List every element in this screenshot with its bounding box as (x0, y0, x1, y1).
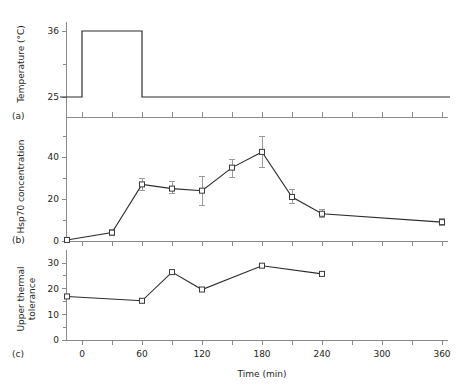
x-axis-tick-label: 0 (79, 349, 85, 359)
panel-c-data-point (65, 294, 70, 299)
panel-a-ytick-label: 36 (48, 26, 60, 36)
panel-b-y-axis-label: Hsp70 concentration (16, 140, 26, 234)
panel-c-data-point (200, 287, 205, 292)
x-axis-tick-label: 60 (136, 349, 148, 359)
panel-b-ytick-label: 0 (53, 236, 59, 246)
x-axis-tick-label: 120 (193, 349, 210, 359)
panel-c-data-line (67, 266, 322, 301)
panel-b-data-point (440, 220, 445, 225)
panel-b-data-point (260, 149, 265, 154)
panel-c-ytick-label: 30 (48, 258, 60, 268)
panel-b-data-point (200, 188, 205, 193)
x-axis-label: Time (min) (237, 369, 287, 379)
panel-b-data-point (170, 186, 175, 191)
multi-panel-chart: 2536Temperature (°C)(a)02040Hsp70 concen… (0, 0, 456, 391)
panel-b-ytick-label: 20 (48, 194, 60, 204)
panel-a-data-line (60, 31, 450, 97)
panel-c-data-point (170, 270, 175, 275)
panel-b-label: (b) (12, 235, 25, 245)
panel-b: 02040Hsp70 concentration(b) (12, 122, 448, 246)
panel-b-ytick-label: 40 (48, 152, 60, 162)
panel-a-label: (a) (12, 111, 25, 121)
panel-b-data-point (110, 230, 115, 235)
panel-c-y-axis-label-line2: tolerance (27, 277, 37, 320)
figure-container: 2536Temperature (°C)(a)02040Hsp70 concen… (0, 0, 456, 391)
panel-c-ytick-label: 10 (48, 310, 60, 320)
panel-b-data-point (230, 165, 235, 170)
panel-b-data-point (140, 182, 145, 187)
x-axis-tick-label: 360 (433, 349, 450, 359)
panel-c-data-point (320, 271, 325, 276)
x-axis-tick-label: 180 (253, 349, 270, 359)
panel-c-ytick-label: 0 (53, 335, 59, 345)
panel-b-data-line (67, 152, 442, 240)
panel-c-y-axis-label-line1: Upper thermal (16, 266, 26, 331)
panel-a-y-axis-label: Temperature (°C) (16, 25, 26, 104)
panel-c-data-point (260, 263, 265, 268)
panel-a: 2536Temperature (°C)(a) (12, 22, 450, 127)
panel-b-data-point (320, 211, 325, 216)
panel-a-ytick-label: 25 (48, 92, 59, 102)
panel-b-data-point (290, 194, 295, 199)
panel-c-ytick-label: 20 (48, 284, 60, 294)
panel-c: 0102030060120180240300360Upper thermalto… (12, 250, 451, 379)
panel-b-data-point (65, 237, 70, 242)
x-axis-tick-label: 240 (313, 349, 330, 359)
x-axis-tick-label: 300 (373, 349, 390, 359)
panel-c-label: (c) (12, 349, 24, 359)
panel-c-data-point (140, 298, 145, 303)
